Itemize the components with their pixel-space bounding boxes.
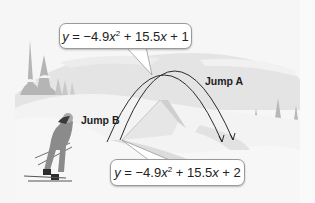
top-equation: y = −4.9x2 + 15.5x + 1 (62, 29, 189, 44)
ski-jump-figure: y = −4.9x2 + 15.5x + 1 y = −4.9x2 + 15.5… (0, 0, 315, 203)
bottom-equation-callout: y = −4.9x2 + 15.5x + 2 (110, 159, 245, 186)
top-equation-callout: y = −4.9x2 + 15.5x + 1 (59, 23, 192, 49)
bottom-equation: y = −4.9x2 + 15.5x + 2 (114, 165, 241, 180)
jump-a-label: Jump A (205, 75, 243, 87)
jump-b-label: Jump B (81, 114, 120, 126)
